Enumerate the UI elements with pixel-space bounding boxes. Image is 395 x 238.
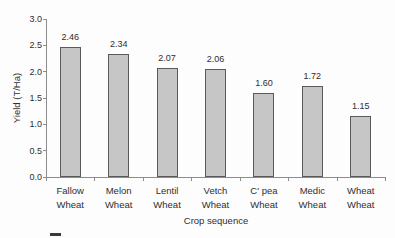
- bar-value-label: 1.60: [242, 77, 286, 89]
- bar: [253, 93, 274, 177]
- x-tick-mark: [288, 177, 289, 181]
- x-category-label-line: Fallow: [46, 184, 94, 198]
- x-tick-mark: [240, 177, 241, 181]
- y-tick-label: 0.5: [14, 145, 42, 157]
- y-tick-label: 2.5: [14, 39, 42, 51]
- x-category-label: LentilWheat: [143, 184, 191, 212]
- x-category-label-line: Wheat: [240, 198, 288, 212]
- x-tick-mark: [46, 177, 47, 181]
- x-category-label-line: Wheat: [337, 184, 385, 198]
- x-category-label-line: Vetch: [191, 184, 239, 198]
- x-category-label-line: Melon: [94, 184, 142, 198]
- bar-value-label: 2.34: [97, 38, 141, 50]
- x-category-label-line: Medic: [288, 184, 336, 198]
- y-tick-label: 1.0: [14, 118, 42, 130]
- y-tick-label: 3.0: [14, 13, 42, 25]
- x-category-label-line: C' pea: [240, 184, 288, 198]
- bar: [350, 116, 371, 177]
- x-category-label-line: Wheat: [288, 198, 336, 212]
- x-category-label: MelonWheat: [94, 184, 142, 212]
- bar-value-label: 1.72: [290, 70, 334, 82]
- bar: [205, 69, 226, 177]
- y-tick-label: 1.5: [14, 92, 42, 104]
- x-category-label: VetchWheat: [191, 184, 239, 212]
- bar-value-label: 2.07: [145, 52, 189, 64]
- legend-swatch-fragment: [50, 233, 61, 236]
- x-category-label: C' peaWheat: [240, 184, 288, 212]
- x-category-label-line: Wheat: [46, 198, 94, 212]
- x-category-label: MedicWheat: [288, 184, 336, 212]
- x-category-label-line: Wheat: [337, 198, 385, 212]
- bar-value-label: 2.06: [194, 53, 238, 65]
- x-category-label: WheatWheat: [337, 184, 385, 212]
- bar: [302, 86, 323, 177]
- bar: [157, 68, 178, 177]
- x-category-label: FallowWheat: [46, 184, 94, 212]
- x-axis-title: Crop sequence: [146, 214, 286, 227]
- bar-value-label: 2.46: [48, 31, 92, 43]
- y-tick-label: 2.0: [14, 66, 42, 78]
- x-tick-mark: [191, 177, 192, 181]
- x-axis-line: [46, 177, 386, 178]
- x-tick-mark: [143, 177, 144, 181]
- x-category-label-line: Wheat: [191, 198, 239, 212]
- x-category-label-line: Wheat: [94, 198, 142, 212]
- x-tick-mark: [337, 177, 338, 181]
- x-category-label-line: Lentil: [143, 184, 191, 198]
- bar: [60, 47, 81, 177]
- x-category-label-line: Wheat: [143, 198, 191, 212]
- y-tick-label: 0.0: [14, 171, 42, 183]
- x-tick-mark: [94, 177, 95, 181]
- bar: [108, 54, 129, 177]
- y-axis-line: [46, 19, 47, 178]
- bar-chart: Yield (T/Ha) 0.00.51.01.52.02.53.0 2.462…: [0, 0, 395, 238]
- bar-value-label: 1.15: [339, 100, 383, 112]
- x-tick-mark: [385, 177, 386, 181]
